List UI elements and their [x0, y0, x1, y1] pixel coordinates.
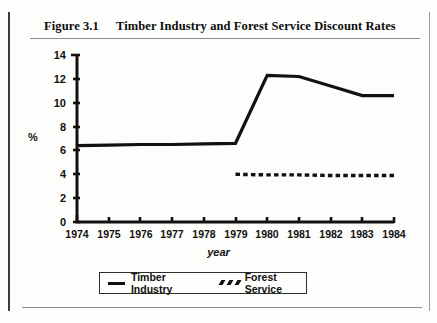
solid-line-swatch-icon — [108, 282, 125, 285]
legend-item-forest-service: Forest Service — [220, 271, 306, 295]
axis-lines — [76, 55, 394, 222]
chart-legend: Timber Industry Forest Service — [99, 272, 307, 294]
dashed-line-swatch-icon — [220, 280, 239, 286]
legend-label-timber-industry: Timber Industry — [131, 271, 198, 295]
legend-item-timber-industry: Timber Industry — [108, 271, 198, 295]
figure-page: Figure 3.1Timber Industry and Forest Ser… — [0, 0, 437, 323]
legend-label-forest-service: Forest Service — [245, 271, 306, 295]
series-line-forest-service — [236, 174, 395, 175]
series-line-timber-industry — [77, 75, 394, 145]
